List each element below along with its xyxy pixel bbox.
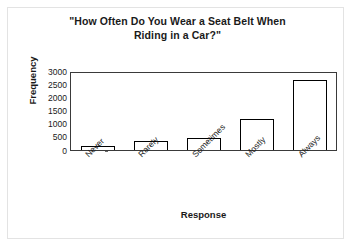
y-tick-2500: 2500 (48, 81, 67, 90)
y-tick-2000: 2000 (48, 94, 67, 103)
chart-figure: "How Often Do You Wear a Seat Belt When … (0, 0, 353, 249)
chart-title: "How Often Do You Wear a Seat Belt When … (30, 14, 325, 42)
y-axis-tick-labels: 050010001500200025003000 (38, 66, 67, 158)
x-axis-title: Response (70, 209, 337, 220)
y-tick-1500: 1500 (48, 107, 67, 116)
y-tick-500: 500 (53, 133, 67, 142)
chart-title-line-1: "How Often Do You Wear a Seat Belt When (30, 14, 325, 28)
y-tick-1000: 1000 (48, 120, 67, 129)
y-axis-title: Frequency (27, 41, 38, 121)
chart-title-line-2: Riding in a Car?" (30, 28, 325, 42)
y-tick-0: 0 (62, 147, 67, 156)
x-axis-tick-labels: NeverRarelySometimesMostlyAlways (70, 152, 337, 202)
y-tick-3000: 3000 (48, 68, 67, 77)
